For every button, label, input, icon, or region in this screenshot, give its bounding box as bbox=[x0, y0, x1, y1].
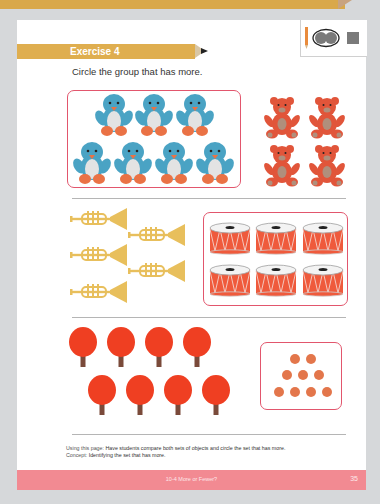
chapter-banner bbox=[0, 0, 345, 9]
pencil-icon bbox=[305, 27, 308, 49]
circled-dots-icon bbox=[313, 30, 339, 47]
page-footer: 10-4 More or Fewer? 35 bbox=[17, 470, 366, 490]
pencil-lead-icon bbox=[201, 48, 208, 54]
trumpet-group[interactable] bbox=[66, 205, 196, 305]
instruction-text: Circle the group that has more. bbox=[72, 66, 202, 77]
ping-pong-paddle-group[interactable] bbox=[66, 322, 246, 432]
chapter-banner-tip bbox=[338, 0, 352, 9]
square-icon bbox=[347, 32, 359, 44]
concept-note: Concept: Identifying the set that has mo… bbox=[66, 452, 285, 459]
teacher-notes: Using this page: Have students compare b… bbox=[66, 445, 285, 459]
footer-lesson-title: 10-4 More or Fewer? bbox=[17, 476, 366, 482]
using-label: Using this page: bbox=[66, 445, 104, 451]
row-divider-1 bbox=[72, 198, 346, 199]
page-number: 35 bbox=[350, 475, 358, 482]
using-text: Have students compare both sets of objec… bbox=[105, 445, 285, 451]
row-divider-3 bbox=[72, 434, 346, 435]
ball-group[interactable] bbox=[260, 342, 342, 410]
using-this-page-note: Using this page: Have students compare b… bbox=[66, 445, 285, 452]
row-divider-2 bbox=[72, 317, 346, 318]
activity-legend bbox=[300, 20, 367, 57]
teddy-bear-group[interactable] bbox=[255, 88, 350, 193]
concept-label: Concept: bbox=[66, 452, 87, 458]
exercise-title: Exercise 4 bbox=[70, 45, 120, 58]
concept-text: Identifying the set that has more. bbox=[89, 452, 166, 458]
penguin-group[interactable] bbox=[67, 90, 242, 190]
drum-group[interactable] bbox=[203, 212, 349, 307]
